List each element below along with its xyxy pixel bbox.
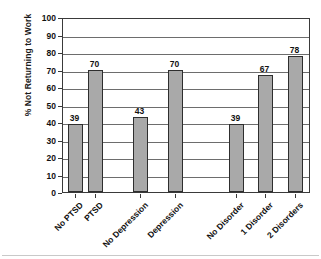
y-tick-mark [58, 158, 62, 159]
y-tick-label: 90 [22, 31, 56, 41]
bar [229, 124, 244, 192]
y-tick-label: 80 [22, 48, 56, 58]
y-tick-label: 50 [22, 101, 56, 111]
bar-value-label: 43 [135, 106, 144, 116]
bar-value-label: 39 [231, 113, 240, 123]
y-tick-label: 60 [22, 83, 56, 93]
x-tick-mark [265, 194, 266, 198]
x-tick-label: No Depression [100, 200, 149, 249]
y-tick-label: 0 [22, 188, 56, 198]
y-tick-mark [58, 106, 62, 107]
y-tick-mark [58, 71, 62, 72]
gridline [63, 37, 309, 38]
x-tick-mark [295, 194, 296, 198]
x-tick-label: PTSD [81, 200, 104, 223]
x-tick-mark [95, 194, 96, 198]
y-tick-mark [58, 176, 62, 177]
x-tick-mark [140, 194, 141, 198]
y-tick-mark [58, 193, 62, 194]
y-tick-mark [58, 18, 62, 19]
y-axis-title: % Not Returning to Work [23, 0, 33, 155]
y-tick-mark [58, 88, 62, 89]
bar [88, 70, 103, 193]
x-tick-label: No Disorder [204, 200, 245, 241]
x-tick-mark [175, 194, 176, 198]
bar [133, 117, 148, 192]
x-tick-mark [236, 194, 237, 198]
y-tick-mark [58, 36, 62, 37]
y-tick-label: 10 [22, 171, 56, 181]
bar-value-label: 67 [260, 64, 269, 74]
gridline [63, 54, 309, 55]
bar-value-label: 39 [70, 113, 79, 123]
bar [168, 70, 183, 193]
bar-value-label: 78 [290, 45, 299, 55]
y-tick-mark [58, 53, 62, 54]
y-tick-mark [58, 123, 62, 124]
bar [258, 75, 273, 192]
bar-value-label: 70 [90, 59, 99, 69]
y-tick-label: 30 [22, 136, 56, 146]
x-tick-label: Depression [145, 200, 185, 240]
figure-border [2, 255, 319, 256]
bar-value-label: 70 [170, 59, 179, 69]
y-tick-label: 40 [22, 118, 56, 128]
y-tick-label: 20 [22, 153, 56, 163]
bar [68, 124, 83, 192]
x-tick-label: No PTSD [52, 200, 85, 233]
x-tick-mark [75, 194, 76, 198]
bar [288, 56, 303, 193]
y-tick-label: 70 [22, 66, 56, 76]
plot-area [62, 18, 310, 193]
y-tick-label: 100 [22, 13, 56, 23]
bar-chart: % Not Returning to Work 0102030405060708… [0, 0, 321, 259]
y-tick-mark [58, 141, 62, 142]
